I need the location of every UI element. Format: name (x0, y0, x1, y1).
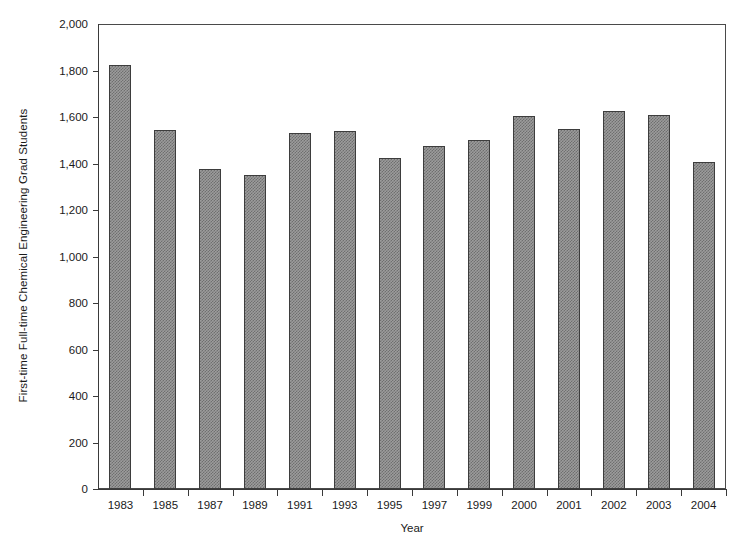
x-axis-tick-label: 1983 (98, 498, 143, 512)
bar (603, 111, 625, 489)
x-axis-tick-mark (322, 490, 323, 496)
bar (109, 65, 131, 489)
bars-layer (98, 24, 726, 489)
x-axis-tick-label: 1989 (233, 498, 278, 512)
bar (334, 131, 356, 489)
bar (199, 169, 221, 489)
x-axis-tick-mark (188, 490, 189, 496)
x-axis-tick-mark (681, 490, 682, 496)
x-axis-tick-mark (367, 490, 368, 496)
y-axis-tick-label: 1,400 (28, 158, 88, 170)
x-axis-tick-mark (502, 490, 503, 496)
y-axis-tick-label: 1,600 (28, 111, 88, 123)
x-axis-tick-mark (143, 490, 144, 496)
x-axis-tick-label: 1991 (277, 498, 322, 512)
x-axis-tick-mark (636, 490, 637, 496)
x-axis-tick-mark (591, 490, 592, 496)
x-axis-tick-mark (277, 490, 278, 496)
y-axis-tick-label: 800 (28, 297, 88, 309)
bar (693, 162, 715, 489)
y-axis-tick-label: 400 (28, 390, 88, 402)
x-axis-tick-label: 2001 (547, 498, 592, 512)
bar (468, 140, 490, 489)
x-axis-tick-mark (547, 490, 548, 496)
y-axis-tick-label: 600 (28, 344, 88, 356)
x-axis-tick-label: 2003 (636, 498, 681, 512)
bar-chart: First-time Full-time Chemical Engineerin… (0, 0, 753, 555)
x-axis-tick-label: 2000 (502, 498, 547, 512)
y-axis-tick-label: 200 (28, 437, 88, 449)
x-axis-tick-label: 1997 (412, 498, 457, 512)
y-axis-tick-label: 1,200 (28, 204, 88, 216)
bar (423, 146, 445, 489)
y-axis-tick-mark (93, 489, 99, 490)
bar (513, 116, 535, 489)
x-axis-tick-labels: 1983198519871989199119931995199719992000… (98, 498, 726, 514)
x-axis-tick-mark (726, 490, 727, 496)
x-axis-tick-mark (412, 490, 413, 496)
x-axis-tick-label: 1995 (367, 498, 412, 512)
bar (154, 130, 176, 489)
bar (558, 129, 580, 489)
x-axis-tick-label: 1993 (322, 498, 367, 512)
y-axis-tick-label: 1,800 (28, 65, 88, 77)
x-axis-tick-label: 1985 (143, 498, 188, 512)
y-axis-tick-label: 1,000 (28, 251, 88, 263)
x-axis-tick-label: 1987 (188, 498, 233, 512)
y-axis-tick-label: 0 (28, 483, 88, 495)
y-axis-tick-label: 2,000 (28, 18, 88, 30)
bar (289, 133, 311, 489)
bar (648, 115, 670, 489)
bar (244, 175, 266, 489)
x-axis-title: Year (98, 521, 726, 535)
x-axis-tick-mark (457, 490, 458, 496)
x-axis-tick-label: 2004 (681, 498, 726, 512)
x-axis-tick-label: 1999 (457, 498, 502, 512)
bar (379, 158, 401, 489)
x-axis-tick-label: 2002 (591, 498, 636, 512)
y-axis-tick-labels: 02004006008001,0001,2001,4001,6001,8002,… (28, 24, 88, 489)
x-axis-tick-mark (233, 490, 234, 496)
